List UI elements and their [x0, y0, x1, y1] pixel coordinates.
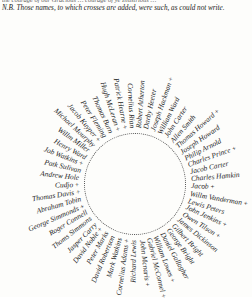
header-note: N.B. Those names, to which crosses are a… — [2, 4, 225, 12]
signature-text: Richard Lewis — [129, 240, 139, 283]
cross-mark-icon: + — [231, 144, 237, 153]
signature-name: Richard Lewis — [130, 240, 139, 283]
signature-name: Jacob+ — [191, 182, 215, 191]
center-dotted-circle — [84, 133, 186, 235]
header-top-line: the courage of our Gracious … courage of… — [2, 0, 156, 3]
cross-mark-icon: + — [221, 220, 228, 229]
cross-mark-icon: + — [168, 277, 177, 284]
cross-mark-icon: + — [143, 282, 151, 287]
cross-mark-icon: + — [159, 293, 168, 299]
cross-mark-icon: + — [210, 183, 214, 191]
signature-text: Jacob — [191, 181, 209, 191]
cross-mark-icon: + — [243, 199, 248, 208]
